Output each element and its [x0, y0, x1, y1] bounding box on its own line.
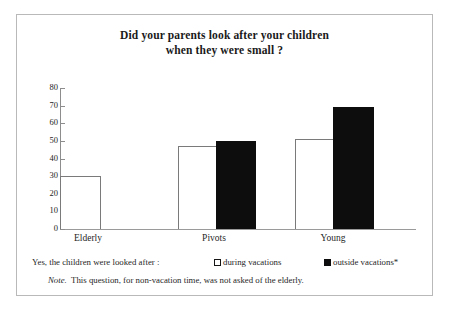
legend-lead-text: Yes, the children were looked after :: [32, 256, 159, 269]
y-tick-label-30: 30: [40, 170, 58, 180]
legend-item-during-vacations: during vacations: [214, 256, 281, 269]
legend-label-outside-vacations: outside vacations*: [333, 257, 398, 267]
chart-note: Note. This question, for non-vacation ti…: [48, 274, 304, 287]
bar-young-outside: [333, 107, 374, 229]
category-label-young: Young: [291, 232, 375, 245]
chart-title-line-2: when they were small ?: [17, 43, 432, 58]
category-label-pivots: Pivots: [172, 232, 256, 245]
category-label-elderly: Elderly: [46, 232, 130, 245]
y-tick-mark-0: [60, 229, 65, 230]
x-axis-category-labels: Elderly Pivots Young: [36, 232, 416, 248]
bar-pivots-outside: [216, 141, 256, 229]
legend-label-during-vacations: during vacations: [223, 257, 281, 267]
legend: Yes, the children were looked after : du…: [17, 256, 432, 270]
plot-area: 0 10 20 30 40 50 60 70: [36, 88, 416, 230]
legend-swatch-filled-square-icon: [324, 259, 331, 266]
note-text: This question, for non-vacation time, wa…: [71, 275, 304, 285]
chart-title: Did your parents look after your childre…: [17, 28, 432, 58]
y-tick-label-10: 10: [40, 205, 58, 215]
figure-frame: Did your parents look after your childre…: [16, 14, 433, 296]
y-tick-label-40: 40: [40, 153, 58, 163]
bar-elderly-during: [60, 176, 101, 229]
y-tick-label-70: 70: [40, 100, 58, 110]
x-axis-line: [60, 229, 416, 230]
bars-layer: [60, 88, 416, 229]
y-tick-label-20: 20: [40, 188, 58, 198]
bar-pivots-during: [178, 146, 217, 229]
y-tick-label-50: 50: [40, 135, 58, 145]
bar-young-during: [295, 139, 334, 229]
y-tick-label-60: 60: [40, 117, 58, 127]
legend-item-outside-vacations: outside vacations*: [324, 256, 398, 269]
y-tick-label-80: 80: [40, 82, 58, 92]
note-prefix: Note.: [48, 275, 67, 285]
chart-title-line-1: Did your parents look after your childre…: [17, 28, 432, 43]
legend-swatch-open-square-icon: [214, 259, 221, 266]
